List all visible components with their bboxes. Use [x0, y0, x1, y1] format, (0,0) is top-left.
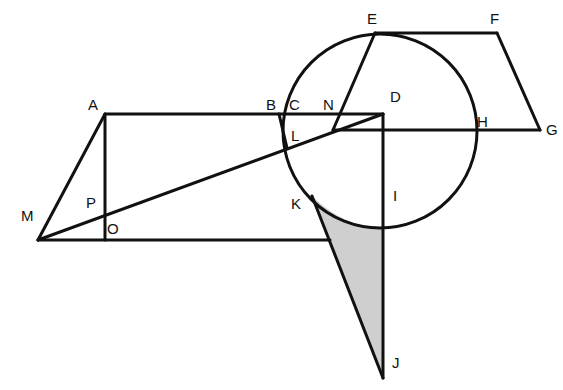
label-O: O: [107, 221, 119, 236]
segment-MA: [38, 114, 105, 240]
label-M: M: [21, 208, 34, 223]
label-G: G: [546, 122, 558, 137]
label-P: P: [86, 195, 96, 210]
label-F: F: [490, 11, 499, 26]
label-A: A: [88, 97, 98, 112]
geometry-diagram: [0, 0, 563, 390]
label-L: L: [291, 128, 299, 143]
label-N: N: [323, 97, 334, 112]
label-C: C: [289, 97, 300, 112]
label-H: H: [477, 114, 488, 129]
label-D: D: [390, 89, 401, 104]
segment-FG: [497, 33, 540, 130]
label-K: K: [291, 196, 301, 211]
label-E: E: [367, 11, 377, 26]
label-J: J: [392, 355, 400, 370]
label-I: I: [393, 188, 397, 203]
label-B: B: [266, 97, 276, 112]
